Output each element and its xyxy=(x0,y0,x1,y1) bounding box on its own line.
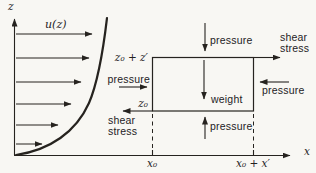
velocity-profile-label: u(z) xyxy=(45,19,66,30)
velocity-arrows xyxy=(16,34,92,144)
box-top-left-label: z₀ + z′ xyxy=(104,52,148,63)
x-tick-left-label: x₀ xyxy=(147,158,157,169)
pressure-bottom-label: pressure xyxy=(210,121,252,132)
x-tick-right-label: x₀ + x′ xyxy=(236,158,270,169)
weight-label: weight xyxy=(211,94,243,105)
shear-stress-top-label: shear stress xyxy=(280,32,309,53)
velocity-profile-curve xyxy=(16,18,107,155)
box-bottom-left-label: z₀ xyxy=(130,98,148,109)
pressure-left-label: pressure xyxy=(104,74,150,85)
x-axis-label: x xyxy=(304,146,310,157)
figure-canvas: z x u(z) z₀ + z′ z₀ x₀ x₀ + x′ pressure … xyxy=(0,0,316,173)
pressure-top-label: pressure xyxy=(210,35,252,46)
z-axis-label: z xyxy=(8,1,14,12)
pressure-right-label: pressure xyxy=(262,85,304,96)
shear-stress-bottom-label: shear stress xyxy=(108,115,137,136)
